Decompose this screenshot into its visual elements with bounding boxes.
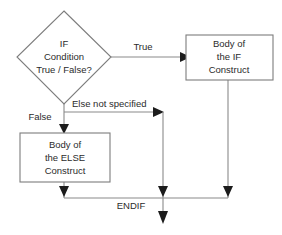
- if-box-line-1: Body of: [213, 38, 246, 49]
- else-box-line-2: the ELSE: [45, 152, 85, 163]
- connector-center-merge: [158, 112, 168, 224]
- label-true-branch: True: [133, 41, 152, 52]
- arrowhead-if-body-to-endif: [223, 186, 233, 197]
- label-else-not-specified: Else not specified: [72, 98, 146, 109]
- else-box-line-1: Body of: [49, 139, 82, 150]
- flowchart-canvas: IF Condition True / False? Body of the I…: [0, 0, 282, 235]
- label-false-branch: False: [28, 111, 51, 122]
- connector-else-body-to-endif: [59, 182, 69, 198]
- arrowhead-else-not-specified: [153, 107, 164, 117]
- decision-line-3: True / False?: [36, 64, 92, 75]
- arrowhead-center-to-endif: [158, 186, 168, 197]
- decision-line-1: IF: [60, 38, 69, 49]
- connector-true-branch: [111, 52, 191, 62]
- connector-if-body-to-endif: [223, 80, 233, 198]
- arrowhead-flow-exit: [158, 211, 168, 224]
- decision-line-2: Condition: [44, 51, 84, 62]
- if-box-line-2: the IF: [217, 51, 241, 62]
- else-box-line-3: Construct: [45, 165, 86, 176]
- label-endif: ENDIF: [117, 200, 146, 211]
- flowchart-svg: IF Condition True / False? Body of the I…: [0, 0, 282, 235]
- arrowhead-else-body-to-endif: [59, 186, 69, 197]
- if-box-line-3: Construct: [209, 64, 250, 75]
- connector-false-branch: [59, 104, 69, 134]
